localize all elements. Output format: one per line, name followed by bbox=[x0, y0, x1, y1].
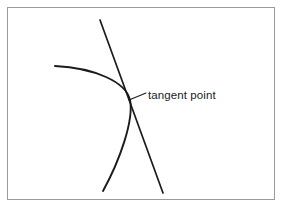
figure-canvas bbox=[0, 0, 284, 210]
tangent-diagram: tangent point bbox=[0, 0, 284, 210]
tangent-line bbox=[100, 20, 163, 193]
tangent-curve bbox=[55, 66, 131, 191]
tangent-point-leader-line bbox=[129, 93, 146, 100]
tangent-point-label: tangent point bbox=[148, 89, 216, 102]
